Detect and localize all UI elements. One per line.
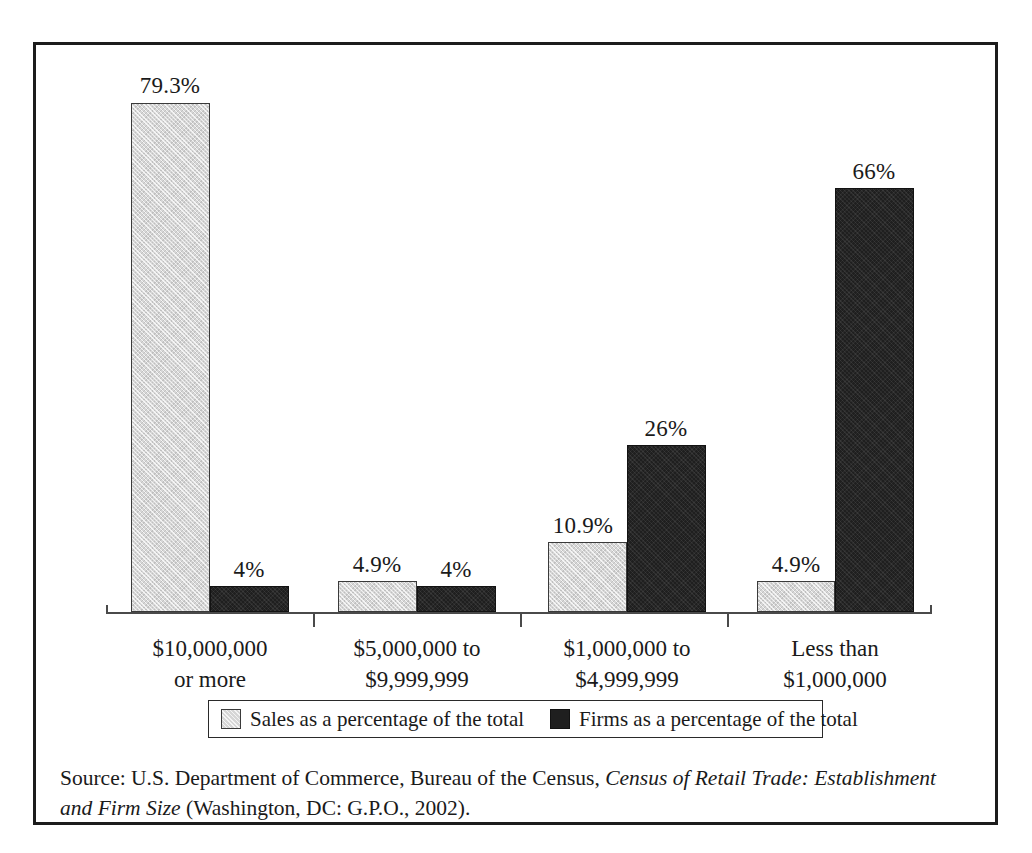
legend-label-sales: Sales as a percentage of the total [250,707,524,732]
source-line2-italic: Firm Size [98,796,181,820]
category-label-4-line1: Less than [720,633,950,664]
legend-item-firms[interactable]: Firms as a percentage of the total [550,707,858,732]
category-label-2-line2: $9,999,999 [302,664,532,695]
category-label-2: $5,000,000 to $9,999,999 [302,633,532,695]
bar-group-2-firms[interactable] [417,58,496,612]
bar-group-1-firms[interactable] [210,58,289,612]
bar-value-label-firms-1: 4% [179,557,319,583]
bar-sales-2[interactable] [338,581,417,612]
category-label-1-line2: or more [95,664,325,695]
category-label-3: $1,000,000 to $4,999,999 [512,633,742,695]
category-label-3-line2: $4,999,999 [512,664,742,695]
legend-item-sales[interactable]: Sales as a percentage of the total [221,707,524,732]
source-line1-plain: Source: U.S. Department of Commerce, Bur… [60,766,605,790]
category-label-4: Less than $1,000,000 [720,633,950,695]
figure-frame: 79.3% 4% $10,000,000 or more 4.9% 4% $5,… [33,42,998,825]
bar-value-label-firms-4: 66% [804,159,944,185]
x-axis-line [106,612,932,614]
bar-sales-3[interactable] [548,542,627,612]
x-axis-right-cap [930,605,932,614]
category-label-4-line2: $1,000,000 [720,664,950,695]
x-axis-tick-2 [520,614,522,627]
bar-group-1-sales[interactable] [131,58,210,612]
bar-firms-4[interactable] [835,188,914,612]
category-label-1-line1: $10,000,000 [95,633,325,664]
category-label-1: $10,000,000 or more [95,633,325,695]
x-axis-tick-1 [313,614,315,627]
x-axis-tick-3 [727,614,729,627]
legend-label-firms: Firms as a percentage of the total [579,707,858,732]
source-note: Source: U.S. Department of Commerce, Bur… [60,763,960,823]
light-swatch-icon [221,709,241,729]
bar-firms-1[interactable] [210,586,289,612]
chart-legend: Sales as a percentage of the total Firms… [208,700,823,738]
bar-sales-4[interactable] [757,581,835,612]
category-label-3-line1: $1,000,000 to [512,633,742,664]
bar-group-2-sales[interactable] [338,58,417,612]
source-line2-plain: (Washington, DC: G.P.O., 2002). [181,796,471,820]
bar-group-4-sales[interactable] [757,58,835,612]
bar-firms-3[interactable] [627,445,706,612]
bar-firms-2[interactable] [417,586,496,612]
chart-plot-area: 79.3% 4% $10,000,000 or more 4.9% 4% $5,… [36,45,995,625]
bar-group-3-firms[interactable] [627,58,706,612]
dark-swatch-icon [550,709,570,729]
x-axis-left-cap [106,605,108,614]
category-label-2-line1: $5,000,000 to [302,633,532,664]
bar-value-label-firms-2: 4% [386,557,526,583]
bar-value-label-firms-3: 26% [596,416,736,442]
bar-group-4-firms[interactable] [835,58,914,612]
bar-sales-1[interactable] [131,103,210,612]
